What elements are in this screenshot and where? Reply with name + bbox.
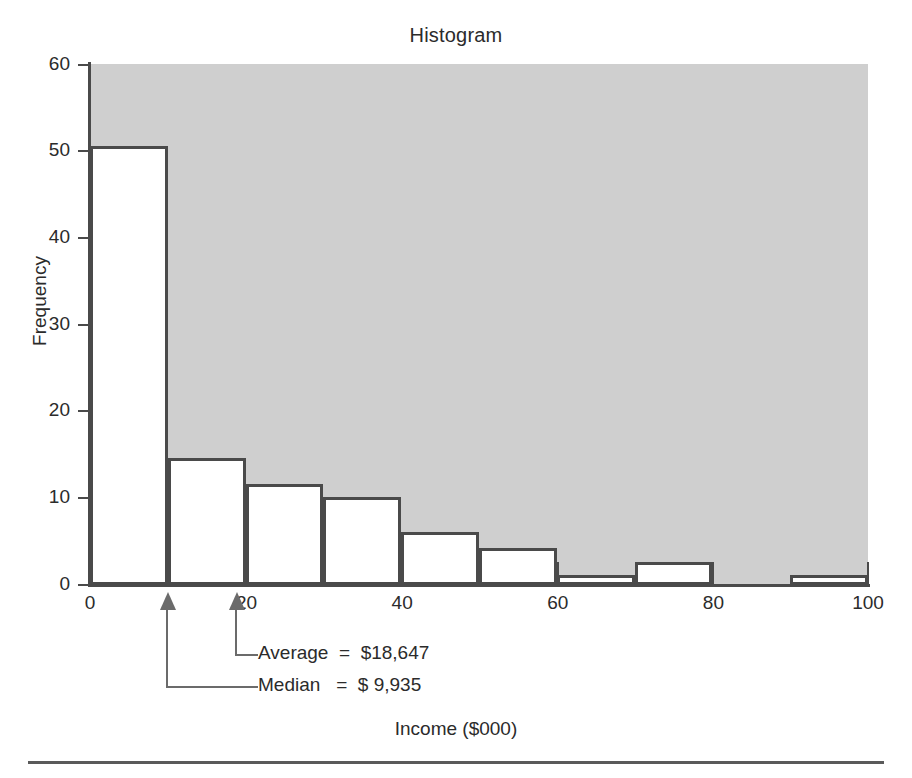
x-tick-40 [401,562,403,586]
x-tick-label-100: 100 [833,592,903,614]
average-leader-line [235,654,258,656]
x-tick-20 [246,562,248,586]
histogram-bar-2 [246,484,324,585]
histogram-figure: Histogram Frequency 0 10 20 30 40 50 60 … [0,0,912,778]
average-arrow-head-icon [229,592,245,610]
median-leader-line [166,686,258,688]
histogram-bar-5 [479,548,557,585]
x-tick-0 [89,562,91,586]
x-tick-60 [557,562,559,586]
histogram-bar-1 [168,458,246,585]
y-axis-line [88,62,91,587]
y-tick-label-10: 10 [10,486,70,508]
page-divider-rule [28,761,884,764]
median-arrow-head-icon [160,592,176,610]
y-tick-label-60: 60 [10,53,70,75]
median-annotation-label: Median = $ 9,935 [258,674,421,696]
average-annotation-label: Average = $18,647 [258,642,429,664]
x-tick-label-60: 60 [523,592,593,614]
x-axis-label: Income ($000) [0,718,912,740]
x-tick-100 [867,562,869,586]
histogram-bar-0 [90,146,168,585]
median-arrow-shaft [166,606,168,687]
histogram-bar-7 [635,562,713,585]
x-tick-label-80: 80 [678,592,748,614]
histogram-bar-4 [401,532,479,585]
y-tick-label-40: 40 [10,226,70,248]
x-axis-line [88,584,870,587]
average-arrow-shaft [235,606,237,655]
y-tick-label-20: 20 [10,399,70,421]
x-tick-label-20: 20 [212,592,282,614]
y-tick-label-50: 50 [10,139,70,161]
x-tick-80 [712,562,714,586]
y-axis-label: Frequency [29,231,51,371]
y-tick-label-30: 30 [10,313,70,335]
histogram-bar-3 [323,497,401,585]
chart-title: Histogram [0,24,912,47]
x-tick-label-0: 0 [55,592,125,614]
x-tick-label-40: 40 [367,592,437,614]
